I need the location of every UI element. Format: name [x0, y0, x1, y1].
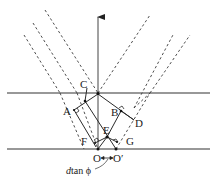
label-E: E: [103, 124, 110, 136]
label-F: F: [81, 135, 87, 147]
diagram-canvas: C A B D E F G O O′ dtan ϕ: [0, 0, 215, 180]
label-O: O: [93, 152, 101, 164]
interference-diagram: C A B D E F G O O′ dtan ϕ: [0, 0, 215, 180]
label-D: D: [135, 117, 143, 129]
label-C: C: [80, 78, 87, 90]
offset-double-arrow: [101, 157, 113, 160]
label-B: B: [111, 106, 118, 118]
label-d-tan-phi: dtan ϕ: [66, 165, 91, 176]
label-A: A: [63, 105, 71, 117]
label-G: G: [126, 135, 134, 147]
label-O-prime: O′: [113, 152, 123, 164]
